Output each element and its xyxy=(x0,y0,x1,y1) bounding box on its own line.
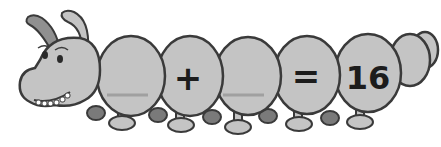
caterpillar-math-illustration: + = 16 xyxy=(0,0,441,147)
result-number: 16 xyxy=(346,59,391,97)
eye-right xyxy=(57,55,63,63)
segment-1 xyxy=(97,36,165,116)
eye-left xyxy=(42,51,48,59)
caterpillar-head xyxy=(20,11,100,106)
plus-operator: + xyxy=(174,58,203,98)
segment-3 xyxy=(215,37,281,115)
equals-sign: = xyxy=(292,56,321,96)
